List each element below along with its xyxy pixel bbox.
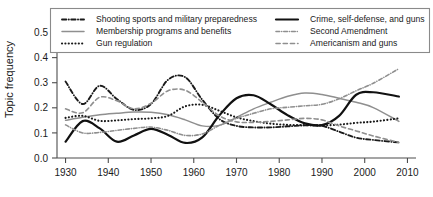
y-tick-label: 0.5 [34, 27, 48, 38]
x-tick-label: 1950 [140, 167, 163, 178]
y-tick-label: 0.4 [34, 52, 48, 63]
series-line [66, 75, 399, 142]
series-line [66, 104, 399, 125]
x-axis-ticks: 193019401950196019701980199020002010 [54, 158, 419, 178]
series-lines [66, 69, 399, 143]
y-tick-label: 0.1 [34, 128, 48, 139]
x-tick-label: 2010 [396, 167, 419, 178]
y-tick-label: 0.2 [34, 102, 48, 113]
legend-item-label: Gun regulation [96, 38, 153, 48]
y-tick-label: 0.0 [34, 153, 48, 164]
x-tick-label: 1960 [183, 167, 206, 178]
chart-legend: Shooting sports and military preparednes… [51, 9, 430, 53]
x-tick-label: 2000 [354, 167, 377, 178]
legend-item-label: Shooting sports and military preparednes… [96, 14, 257, 24]
y-axis-label: Topic frequency [3, 40, 15, 118]
x-tick-label: 1980 [268, 167, 291, 178]
chart-figure: Topic frequency 0.00.10.20.30.40.5 19301… [0, 0, 433, 197]
x-tick-label: 1990 [311, 167, 334, 178]
legend-item-label: Membership programs and benefits [96, 26, 231, 36]
y-tick-label: 0.3 [34, 77, 48, 88]
legend-item-label: Americanism and guns [310, 38, 397, 48]
legend-item-label: Second Amendment [310, 26, 388, 36]
x-tick-label: 1970 [225, 167, 248, 178]
x-tick-label: 1940 [97, 167, 120, 178]
topic-frequency-line-chart: Topic frequency 0.00.10.20.30.40.5 19301… [0, 0, 433, 197]
legend-item-label: Crime, self-defense, and guns [310, 14, 425, 24]
x-tick-label: 1930 [54, 167, 77, 178]
y-axis-label-text: Topic frequency [3, 40, 15, 118]
